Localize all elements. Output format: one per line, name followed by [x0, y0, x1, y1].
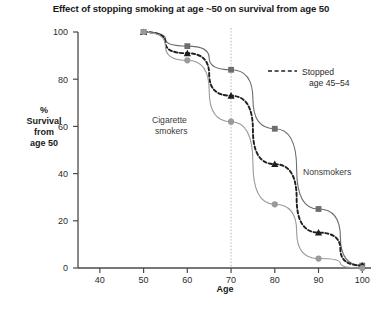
series-nonsmokers	[141, 29, 365, 268]
data-point-square	[272, 126, 278, 132]
data-point-square	[184, 43, 190, 49]
y-axis-title-line: Survival	[26, 116, 61, 126]
x-tick-label: 60	[182, 275, 192, 285]
x-tick-label: 100	[355, 275, 370, 285]
y-tick-label: 80	[58, 75, 68, 85]
data-point-circle	[272, 201, 278, 207]
series-label-nonsmokers: Nonsmokers	[303, 167, 351, 177]
chart-plot-area: 020406080100 405060708090100 %Survivalfr…	[0, 0, 382, 329]
chart-container: Effect of stopping smoking at age ~50 on…	[0, 0, 382, 329]
data-point-circle	[184, 57, 190, 63]
series-stopped-age-45-54	[140, 28, 366, 268]
y-tick-label: 40	[58, 169, 68, 179]
data-point-square	[228, 67, 234, 73]
y-axis-ticks	[73, 32, 78, 268]
x-tick-label: 40	[95, 275, 105, 285]
chart-series-layer	[140, 28, 366, 271]
legend-label-stopped-line1: Stopped	[302, 67, 334, 77]
data-point-square	[316, 206, 322, 212]
y-axis-title-line: %	[40, 105, 48, 115]
y-axis-title-line: from	[34, 127, 54, 137]
x-tick-label: 90	[314, 275, 324, 285]
x-axis-title: Age	[216, 284, 233, 294]
legend-label-stopped-line2: age 45–54	[309, 78, 350, 88]
series-label-cigarette-smokers-line2: smokers	[155, 126, 187, 136]
chart-legend: Stopped age 45–54	[268, 67, 350, 88]
y-tick-label: 100	[53, 27, 68, 37]
x-tick-label: 80	[270, 275, 280, 285]
x-tick-label: 50	[139, 275, 149, 285]
data-point-circle	[228, 119, 234, 125]
series-label-cigarette-smokers-line1: Cigarette	[152, 115, 187, 125]
data-point-circle	[315, 255, 321, 261]
y-axis-title-line: age 50	[30, 138, 58, 148]
y-tick-label: 20	[58, 216, 68, 226]
data-point-circle	[140, 29, 146, 35]
y-axis-title: %Survivalfromage 50	[26, 105, 61, 148]
y-axis-tick-labels: 020406080100	[53, 27, 68, 273]
x-axis-ticks	[100, 268, 362, 273]
data-point-circle	[359, 265, 365, 271]
y-tick-label: 0	[63, 263, 68, 273]
